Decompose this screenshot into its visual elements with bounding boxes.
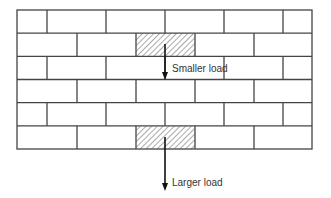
load-label-smaller: Smaller load bbox=[172, 63, 228, 74]
load-arrows: Smaller loadLarger load bbox=[162, 44, 228, 191]
arrowhead-icon bbox=[162, 72, 168, 80]
load-label-larger: Larger load bbox=[172, 177, 223, 188]
brick-wall-diagram: Smaller loadLarger load bbox=[0, 0, 331, 198]
arrowhead-icon bbox=[162, 183, 168, 191]
